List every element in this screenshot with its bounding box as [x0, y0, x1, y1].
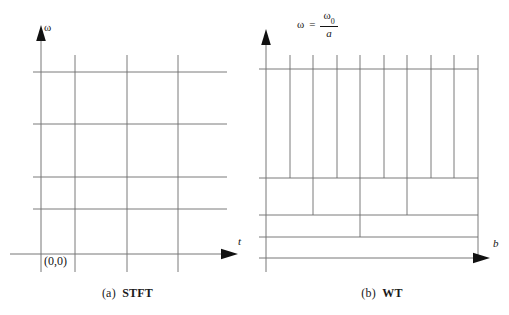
- t-axis-arrowhead: [221, 249, 238, 259]
- panel-stft-graphic: [0, 0, 255, 315]
- wt-gridlines-horizontal: [259, 69, 478, 237]
- wt-band-2-dividers: [313, 178, 407, 215]
- caption-stft: (a) STFT: [0, 286, 255, 301]
- stft-x-axis-label: t: [238, 236, 241, 247]
- wt-y-axis-label: ω = ω0 a: [297, 10, 338, 39]
- figure-container: ω t (0,0) (a) STFT: [0, 0, 509, 315]
- caption-wt: (b) WT: [255, 286, 509, 301]
- stft-origin-label: (0,0): [44, 255, 67, 267]
- wt-y-axis-label-fraction: ω0 a: [320, 10, 337, 39]
- caption-stft-name: STFT: [122, 286, 153, 300]
- wt-x-axis-label: b: [493, 238, 499, 249]
- caption-wt-index: (b): [361, 286, 376, 300]
- wt-y-axis-label-equals: =: [308, 19, 316, 30]
- stft-gridlines: [33, 55, 227, 272]
- caption-wt-name: WT: [382, 286, 402, 300]
- omega-axis-arrowhead: [261, 29, 271, 45]
- wt-axes: [259, 29, 490, 272]
- fraction-numerator-subscript: 0: [331, 17, 335, 26]
- wt-band-1-dividers: [290, 55, 454, 178]
- caption-stft-index: (a): [102, 286, 116, 300]
- fraction-numerator: ω0: [320, 10, 337, 26]
- wt-y-axis-label-omega: ω: [297, 19, 304, 30]
- panel-wt-graphic: [255, 0, 509, 315]
- stft-y-axis-label: ω: [44, 22, 51, 33]
- b-axis-arrowhead: [473, 253, 490, 263]
- stft-axes: [10, 25, 238, 272]
- fraction-denominator: a: [323, 27, 335, 40]
- fraction-numerator-symbol: ω: [323, 9, 330, 21]
